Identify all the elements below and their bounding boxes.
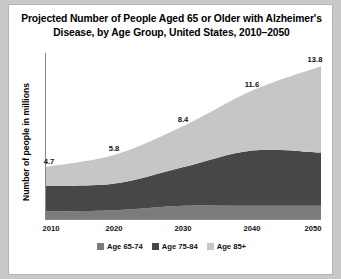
legend-item[interactable]: Age 75-84 [152,242,198,251]
x-tick-label: 2030 [175,224,192,233]
chart-title: Projected Number of People Aged 65 or Ol… [19,12,324,40]
chart-legend: Age 65-74Age 75-84Age 85+ [9,242,334,251]
legend-swatch-icon [152,243,159,250]
legend-label: Age 65-74 [107,242,143,251]
chart-figure: Projected Number of People Aged 65 or Ol… [8,4,333,275]
legend-swatch-icon [207,243,214,250]
x-tick-label: 2040 [244,224,261,233]
legend-label: Age 75-84 [162,242,198,251]
x-tick-label: 2050 [305,224,322,233]
legend-swatch-icon [97,243,104,250]
legend-item[interactable]: Age 65-74 [97,242,143,251]
legend-label: Age 85+ [217,242,246,251]
stacked-area-svg [46,53,321,219]
y-axis-label: Number of people in millions [21,67,31,217]
chart-title-line-2: Disease, by Age Group, United States, 20… [19,26,324,40]
data-label: 4.7 [44,157,55,166]
data-label: 13.8 [308,55,323,64]
legend-item[interactable]: Age 85+ [207,242,246,251]
data-label: 11.6 [245,80,259,89]
x-tick-label: 2020 [106,224,123,233]
plot-area [45,53,321,220]
chart-title-line-1: Projected Number of People Aged 65 or Ol… [19,12,324,26]
data-label: 5.8 [109,144,120,153]
data-label: 8.4 [178,115,189,124]
x-tick-label: 2010 [43,224,60,233]
